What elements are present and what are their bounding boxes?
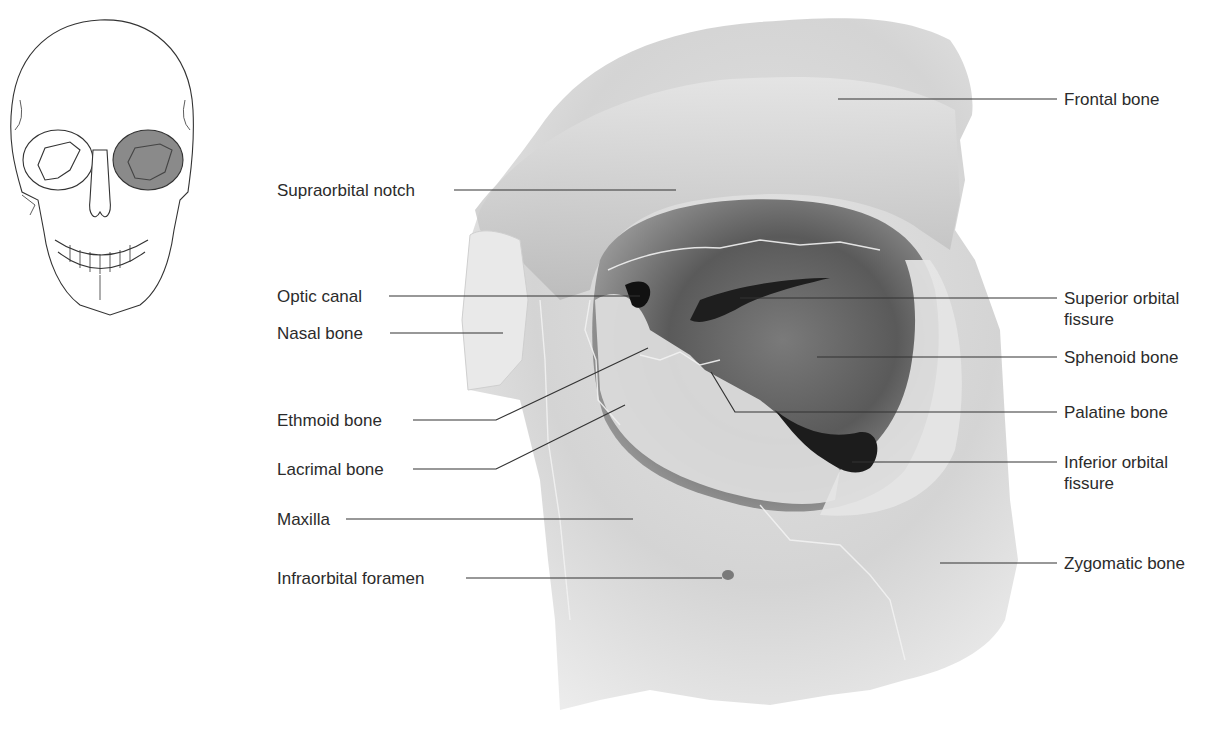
orbit-diagram: Supraorbital notch Optic canal Nasal bon… [0, 0, 1220, 730]
label-supraorbital-notch: Supraorbital notch [277, 180, 415, 201]
label-inferior-orbital-fissure: Inferior orbital fissure [1064, 452, 1204, 494]
label-superior-orbital-fissure: Superior orbital fissure [1064, 288, 1204, 330]
label-palatine-bone: Palatine bone [1064, 402, 1168, 423]
label-frontal-bone: Frontal bone [1064, 89, 1159, 110]
label-sphenoid-bone: Sphenoid bone [1064, 347, 1178, 368]
label-zygomatic-bone: Zygomatic bone [1064, 553, 1185, 574]
label-infraorbital-foramen: Infraorbital foramen [277, 568, 424, 589]
orbit-illustration [0, 0, 1220, 730]
label-nasal-bone: Nasal bone [277, 323, 363, 344]
label-optic-canal: Optic canal [277, 286, 362, 307]
label-ethmoid-bone: Ethmoid bone [277, 410, 382, 431]
label-maxilla: Maxilla [277, 509, 330, 530]
label-lacrimal-bone: Lacrimal bone [277, 459, 384, 480]
